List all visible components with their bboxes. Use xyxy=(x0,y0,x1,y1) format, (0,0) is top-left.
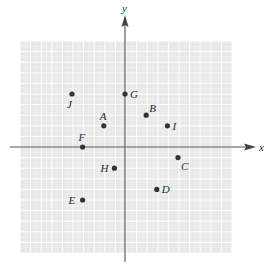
y-axis-label: y xyxy=(121,2,127,14)
point-marker xyxy=(122,91,127,96)
point-label: H xyxy=(99,162,109,174)
coordinate-plane: x y ABCDEFGHIJ xyxy=(0,0,271,271)
point-marker xyxy=(101,123,106,128)
point-label: E xyxy=(68,194,76,206)
point-label: A xyxy=(99,110,107,122)
point-marker xyxy=(80,144,85,149)
point-marker xyxy=(69,91,74,96)
point-marker xyxy=(175,155,180,160)
point-marker xyxy=(144,113,149,118)
point-marker xyxy=(154,187,159,192)
point-label: D xyxy=(161,183,170,195)
point-label: C xyxy=(181,160,189,172)
point-marker xyxy=(165,123,170,128)
point-label: B xyxy=(149,102,156,114)
point-marker xyxy=(112,166,117,171)
point-marker xyxy=(80,197,85,202)
x-axis-label: x xyxy=(258,141,264,153)
point-label: F xyxy=(78,131,86,143)
point-label: G xyxy=(130,88,138,100)
